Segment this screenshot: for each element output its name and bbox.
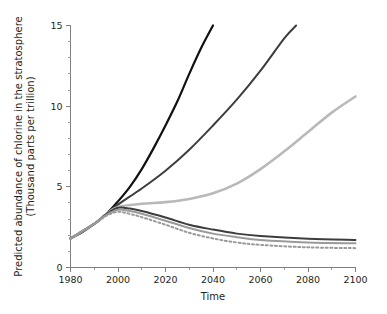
chlorine-abundance-line-chart: 1980200020202040206020802100051015 TimeP…	[0, 0, 387, 314]
tick-labels: 1980200020202040206020802100051015	[50, 20, 367, 285]
chart-figure: 1980200020202040206020802100051015 TimeP…	[0, 0, 387, 314]
y-axis-title-line1: Predicted abundance of chlorine in the s…	[13, 16, 24, 276]
x-axis-title: Time	[200, 291, 225, 302]
x-tick-label-2080: 2080	[296, 274, 320, 285]
y-tick-label-0: 0	[56, 262, 62, 273]
axis-titles: TimePredicted abundance of chlorine in t…	[13, 16, 225, 302]
y-tick-label-5: 5	[56, 181, 62, 192]
series-line-no-protocol	[71, 26, 214, 239]
data-series	[71, 26, 356, 249]
x-tick-label-1980: 1980	[58, 274, 82, 285]
x-tick-label-2060: 2060	[248, 274, 272, 285]
tick-marks	[66, 26, 356, 273]
y-tick-label-10: 10	[50, 101, 62, 112]
axes	[71, 26, 356, 268]
x-tick-label-2020: 2020	[153, 274, 177, 285]
series-line-no-protocol-lower	[71, 26, 297, 239]
y-tick-label-15: 15	[50, 20, 62, 31]
y-axis-title-line2: (Thousand parts per trillion)	[25, 76, 36, 216]
x-tick-label-2040: 2040	[201, 274, 225, 285]
x-tick-label-2000: 2000	[106, 274, 130, 285]
x-tick-label-2100: 2100	[343, 274, 367, 285]
axis-lines	[71, 26, 356, 268]
series-line-montreal-1987	[71, 96, 356, 238]
